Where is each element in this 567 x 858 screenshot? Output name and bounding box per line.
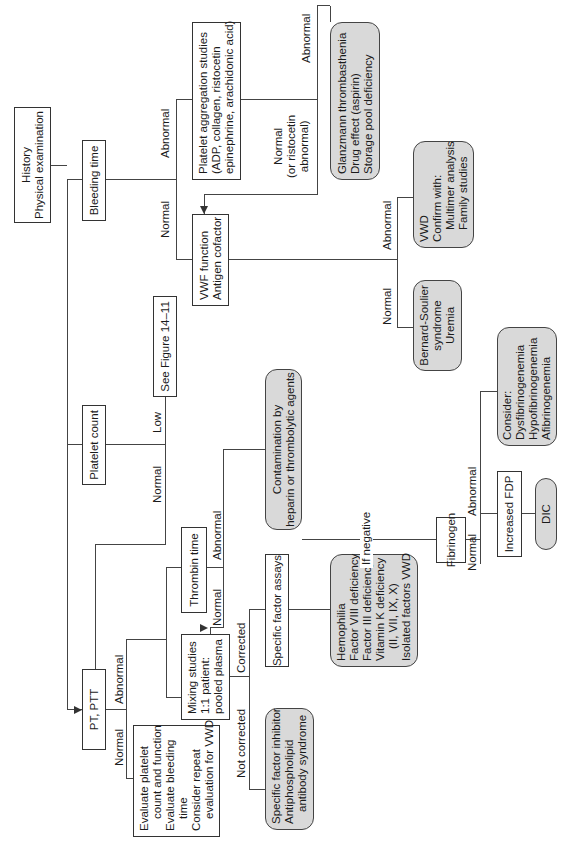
- arrow-head: [200, 624, 208, 632]
- connector: [330, 6, 331, 22]
- label-pa-abnormal: Abnormal: [300, 14, 313, 63]
- node-text: Multimer analysis: [444, 147, 457, 242]
- node-specific-factor-assays: Specific factor assays: [265, 554, 289, 667]
- node-text: Consider repeat: [190, 731, 203, 831]
- node-text: Platelet aggregation studies: [197, 28, 210, 174]
- node-glanzmann: Glanzmann thrombasthenia Drug effect (as…: [330, 22, 380, 180]
- node-consider-fibrinogen: Consider: Dysfibrinogenemia Hypofibrinog…: [497, 327, 557, 446]
- connector: [249, 610, 250, 790]
- connector: [289, 609, 330, 610]
- connector: [210, 627, 223, 628]
- node-text: See Figure 14–11: [159, 301, 172, 392]
- node-contamination: Contamination by heparin or thrombolytic…: [265, 369, 302, 530]
- arrow-head: [74, 706, 82, 714]
- node-text: epinephrine, arachidonic acid): [223, 28, 236, 174]
- node-text: Increased FDP: [503, 476, 516, 553]
- label-pc-normal: Normal: [151, 466, 164, 503]
- label-bt-abnormal: Abnormal: [159, 109, 172, 158]
- connector: [207, 567, 223, 568]
- node-text: Family studies: [457, 147, 470, 242]
- node-text: PT, PTT: [88, 689, 101, 731]
- node-text: Antigen cofactor: [211, 220, 224, 300]
- node-text: Specific factor inhibitor: [270, 714, 283, 824]
- connector: [67, 180, 68, 710]
- node-text: Thrombin time: [188, 533, 201, 607]
- node-see-figure[interactable]: See Figure 14–11: [153, 296, 177, 397]
- connector: [229, 259, 397, 260]
- connector: [106, 709, 126, 710]
- node-text: Uremia: [444, 307, 457, 344]
- connector: [126, 778, 133, 779]
- connector: [67, 444, 82, 445]
- node-increased-fdp: Increased FDP: [497, 471, 522, 557]
- connector: [166, 568, 167, 698]
- connector: [480, 391, 497, 392]
- node-dic: DIC: [535, 478, 557, 550]
- node-text: (II, VII, IX, X): [387, 560, 400, 661]
- node-specific-factor-inhibitor: Specific factor inhibitor Antiphospholip…: [265, 708, 314, 830]
- connector: [522, 513, 535, 514]
- label-pt-normal: Normal: [113, 729, 126, 766]
- node-text: Factor III deficiency: [361, 560, 374, 661]
- connector: [166, 567, 181, 568]
- connector: [480, 513, 497, 514]
- label-vwf-normal: Normal: [381, 288, 394, 325]
- node-text: Specific factor assays: [271, 555, 284, 666]
- node-text: VWF function: [198, 220, 211, 300]
- node-text: antibody syndrome: [296, 714, 309, 824]
- label-tt-normal: Normal: [211, 589, 224, 626]
- flowchart-bleeding-workup: History Physical examination Bleeding ti…: [0, 0, 567, 858]
- node-text: Confirm with:: [431, 147, 444, 242]
- label-pt-abnormal: Abnormal: [113, 655, 126, 704]
- arrow-head: [200, 206, 208, 214]
- node-text: Glanzmann thrombasthenia: [336, 28, 349, 174]
- connector: [397, 198, 398, 328]
- node-text: Mixing studies: [186, 640, 199, 714]
- node-evaluate-platelet: Evaluate platelet count and function Eva…: [133, 725, 220, 837]
- label-fib-abnormal: Abnormal: [466, 467, 479, 516]
- node-pt-ptt: PT, PTT: [82, 669, 106, 750]
- node-text: Evaluate platelet: [138, 731, 151, 831]
- connector: [249, 609, 265, 610]
- node-text: Factor VIII deficiency: [348, 560, 361, 661]
- connector: [126, 639, 166, 640]
- node-text: evaluation for VWD: [203, 731, 216, 831]
- node-text: Bleeding time: [88, 146, 101, 216]
- connector: [176, 99, 192, 100]
- node-text: heparin or thrombolytic agents: [284, 372, 297, 527]
- connector: [249, 789, 265, 790]
- node-fibrinogen: Fibrinogen: [436, 517, 466, 563]
- label-pc-low: Low: [151, 412, 164, 433]
- node-thrombin-time: Thrombin time: [181, 527, 207, 613]
- node-history: History Physical examination: [14, 107, 51, 223]
- label-mix-not-corrected: Not corrected: [235, 709, 248, 778]
- node-hemophilia: Hemophilia Factor VIII deficiency Factor…: [330, 554, 418, 667]
- connector: [204, 194, 317, 195]
- node-vwf-function: VWF function Antigen cofactor: [192, 214, 229, 306]
- label-if-negative: If negative: [360, 509, 373, 568]
- label-tt-abnormal: Abnormal: [211, 511, 224, 560]
- label-text: (or ristocetin: [285, 115, 298, 178]
- connector: [176, 259, 192, 260]
- connector: [106, 179, 176, 180]
- node-text: Storage pool deficiency: [362, 28, 375, 174]
- node-text: Consider:: [501, 333, 514, 440]
- node-text: Hemophilia: [335, 560, 348, 661]
- node-text: Bernard-Soulier: [418, 285, 431, 366]
- connector: [166, 697, 181, 698]
- node-text: Drug effect (aspirin): [349, 28, 362, 174]
- node-text: DIC: [540, 504, 553, 524]
- node-text: VWD: [418, 147, 431, 242]
- connector: [317, 5, 330, 6]
- connector: [95, 544, 165, 545]
- node-platelet-aggregation: Platelet aggregation studies (ADP, colla…: [192, 22, 241, 180]
- label-fib-normal: Normal: [466, 534, 479, 571]
- connector: [106, 444, 165, 445]
- node-text: time: [177, 731, 190, 831]
- node-text: History: [20, 147, 33, 183]
- connector: [317, 5, 318, 100]
- node-text: Isolated factors VWD: [400, 560, 413, 661]
- node-text: Dysfibrinogenemia: [514, 333, 527, 440]
- node-text: Physical examination: [33, 111, 46, 219]
- node-platelet-count: Platelet count: [82, 405, 106, 485]
